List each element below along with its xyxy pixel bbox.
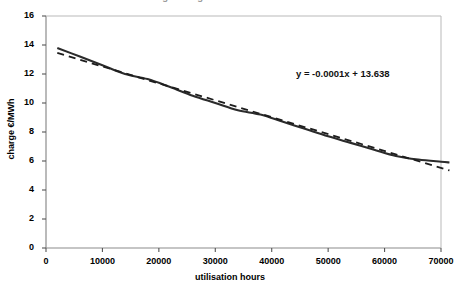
x-tick-label: 30000 bbox=[185, 256, 245, 266]
y-tick-label: 2 bbox=[0, 213, 34, 223]
x-tick-label: 0 bbox=[16, 256, 76, 266]
y-tick-label: 0 bbox=[0, 242, 34, 252]
data-series-layer bbox=[57, 48, 449, 171]
y-tick-label: 12 bbox=[0, 68, 34, 78]
y-tick-label: 4 bbox=[0, 184, 34, 194]
series-line bbox=[57, 48, 449, 163]
chart-container: average charge versus utilisation hours … bbox=[0, 0, 460, 294]
y-tick-label: 14 bbox=[0, 39, 34, 49]
x-tick-label: 40000 bbox=[242, 256, 302, 266]
x-tick-label: 10000 bbox=[72, 256, 132, 266]
trendline-equation-label: y = -0.0001x + 13.638 bbox=[296, 68, 390, 79]
y-tick-label: 16 bbox=[0, 10, 34, 20]
x-tick-label: 60000 bbox=[355, 256, 415, 266]
series-line bbox=[57, 53, 449, 170]
x-tick-label: 50000 bbox=[298, 256, 358, 266]
x-axis-ticks bbox=[46, 248, 441, 252]
chart-plot-svg bbox=[0, 0, 460, 294]
y-axis-title: charge €/MWh bbox=[6, 81, 16, 177]
x-axis-title: utilisation hours bbox=[0, 272, 460, 282]
x-tick-label: 20000 bbox=[129, 256, 189, 266]
x-tick-label: 70000 bbox=[411, 256, 460, 266]
